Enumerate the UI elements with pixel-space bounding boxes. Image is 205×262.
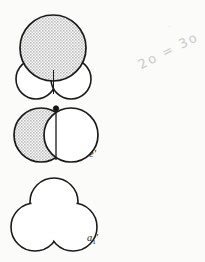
clover-interior-mask — [12, 179, 95, 249]
node-dot — [53, 106, 58, 111]
handwritten-dot-mark: · — [168, 22, 173, 32]
figure-middle — [14, 106, 98, 162]
figure-bottom-label: a1′ — [87, 233, 98, 246]
figure-bottom — [11, 178, 97, 251]
figure-bottom-label-prime: ′ — [96, 232, 98, 243]
figure-middle-label: e′ — [89, 149, 96, 160]
figure-top — [16, 15, 91, 99]
